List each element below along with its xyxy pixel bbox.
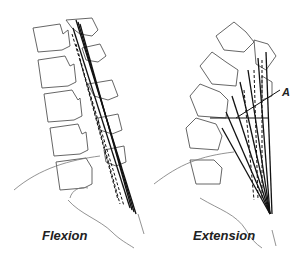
flexion-label: Flexion	[42, 228, 88, 243]
extension-label: Extension	[193, 228, 255, 243]
flexion-panel	[14, 18, 144, 248]
extension-panel	[154, 22, 280, 248]
spine-diagram	[0, 0, 305, 262]
annotation-a-label: A	[282, 86, 290, 98]
